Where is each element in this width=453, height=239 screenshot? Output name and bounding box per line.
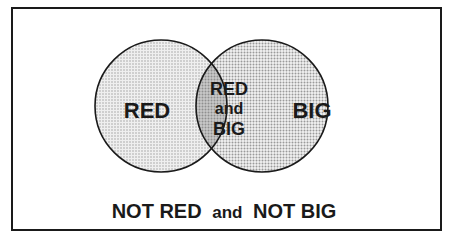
label-outside-part1: NOT RED bbox=[112, 200, 202, 222]
label-outside-part2: and bbox=[212, 203, 242, 222]
label-intersection-line2: and bbox=[215, 100, 243, 117]
venn-diagram: RED BIG RED and BIG NOT RED and NOT BIG bbox=[0, 0, 453, 239]
label-big: BIG bbox=[292, 98, 331, 123]
label-outside-part3: NOT BIG bbox=[253, 200, 336, 222]
label-intersection-line1: RED bbox=[210, 79, 248, 99]
label-intersection-line3: BIG bbox=[213, 119, 245, 139]
label-red: RED bbox=[124, 98, 170, 123]
label-outside: NOT RED and NOT BIG bbox=[112, 200, 337, 222]
